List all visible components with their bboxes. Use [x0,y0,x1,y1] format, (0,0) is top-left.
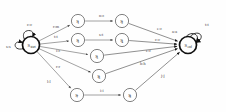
self-loop-start-bottom-label: s:s [6,44,11,49]
self-loop-start-top-label: c:c [27,22,32,27]
edge-s2-end [129,23,178,41]
self-loop-end-left-label: a:a [172,29,177,34]
edge-s7-s8-label: i:i [100,88,105,93]
state-s-start[interactable]: Sstart [23,37,40,54]
state-s1[interactable]: S1 [71,14,84,27]
edge-start-s6 [39,49,90,72]
state-s8[interactable]: S8 [123,88,136,101]
edge-s5-end-label: e:ε [146,48,151,53]
state-s-end-subscript: end [187,45,192,49]
state-s6[interactable]: S6 [92,69,105,82]
edge-start-s7 [37,52,71,89]
state-s5[interactable]: S5 [90,49,103,62]
edge-s8-end-label: j:j [160,73,165,78]
edge-start-s6-label: r:r [56,64,61,69]
state-s2[interactable]: S2 [115,14,128,27]
state-s-start-subscript: start [30,45,35,49]
edge-s3-s4-label: s:t [99,32,104,37]
edge-s5-end [104,46,177,55]
fst-diagram-canvas: SstartS1S2S3S4S5S6S7S8Send c:cs:st:ta:ar… [0,0,226,112]
edge-s6-end-label: h:h [140,61,146,66]
edge-start-s7-label: l:l [47,79,52,84]
edge-s1-s2-label: n:ε [99,13,104,18]
edge-s4-end [129,41,177,45]
node-layer: SstartS1S2S3S4S5S6S7S8Send [23,14,197,101]
edge-start-s1-label: r:m [53,24,60,29]
edge-s2-end-label: e:ε [157,26,162,31]
state-s-end[interactable]: Send [180,37,197,54]
edge-s4-end-label: c:c [155,37,160,42]
self-loop-end-top-label: t:t [205,22,210,27]
state-diagram-svg: SstartS1S2S3S4S5S6S7S8Send c:cs:st:ta:ar… [0,0,226,112]
state-s3[interactable]: S3 [71,33,84,46]
state-s7[interactable]: S7 [70,88,83,101]
edge-start-s5 [40,46,88,54]
edge-start-s3-label: t:t [54,34,59,39]
edge-s8-end [135,52,179,90]
state-s4[interactable]: S4 [115,33,128,46]
edge-layer [37,21,179,95]
edge-start-s3 [40,41,69,44]
edge-start-s5-label: i:ε [56,48,61,53]
